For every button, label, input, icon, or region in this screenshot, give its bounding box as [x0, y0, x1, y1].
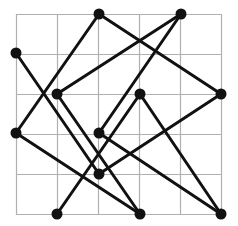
- edges: [16, 14, 221, 214]
- node-I: [94, 169, 105, 180]
- node-B: [176, 9, 187, 20]
- node-J: [52, 209, 63, 220]
- node-F: [216, 89, 227, 100]
- node-C: [11, 48, 22, 59]
- node-A: [94, 9, 105, 20]
- node-D: [52, 89, 63, 100]
- nodes: [11, 9, 227, 220]
- graph-diagram: [0, 0, 238, 226]
- edge-H-L: [99, 133, 221, 214]
- node-E: [135, 89, 146, 100]
- node-L: [216, 209, 227, 220]
- node-H: [94, 128, 105, 139]
- node-G: [11, 128, 22, 139]
- node-K: [135, 209, 146, 220]
